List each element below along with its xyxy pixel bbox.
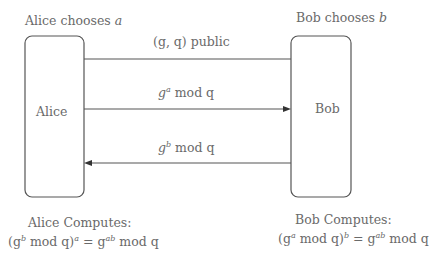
bob-header: Bob chooses b bbox=[296, 11, 387, 25]
bob-header-text: Bob chooses bbox=[296, 10, 379, 25]
bob-computes-label: Bob Computes: bbox=[295, 213, 392, 227]
public-parameters-label: (g, q) public bbox=[153, 35, 230, 49]
alice-header: Alice chooses a bbox=[25, 14, 122, 28]
alice-formula-tail: mod q bbox=[115, 234, 158, 249]
alice-computes-label: Alice Computes: bbox=[28, 216, 131, 230]
message-alice-to-bob-label: ga mod q bbox=[158, 86, 214, 100]
alice-formula-eq: = g bbox=[79, 234, 105, 249]
alice-header-text: Alice chooses bbox=[25, 13, 115, 28]
alice-formula-mid: mod q) bbox=[26, 234, 74, 249]
bob-secret-var: b bbox=[379, 10, 387, 25]
bob-box-label: Bob bbox=[315, 102, 340, 116]
arrowhead-left-icon bbox=[84, 160, 92, 166]
arrowhead-right-icon bbox=[283, 106, 291, 112]
bob-formula-open: (g bbox=[278, 231, 291, 246]
bob-formula-tail: mod q bbox=[385, 231, 428, 246]
msg1-tail: mod q bbox=[171, 85, 214, 100]
msg2-tail: mod q bbox=[171, 140, 214, 155]
alice-formula-result-exp: ab bbox=[105, 234, 115, 243]
bob-box bbox=[291, 36, 351, 197]
bob-formula-mid: mod q) bbox=[296, 231, 344, 246]
alice-box-label: Alice bbox=[36, 105, 67, 119]
msg1-base: g bbox=[158, 85, 166, 100]
msg2-base: g bbox=[158, 140, 166, 155]
alice-secret-var: a bbox=[115, 13, 122, 28]
bob-formula-result-exp: ab bbox=[375, 231, 385, 240]
alice-formula-open: (g bbox=[8, 234, 21, 249]
message-bob-to-alice-label: gb mod q bbox=[158, 141, 214, 155]
bob-formula-eq: = g bbox=[349, 231, 375, 246]
alice-formula: (gb mod q)a = gab mod q bbox=[8, 235, 159, 249]
bob-formula: (ga mod q)b = gab mod q bbox=[278, 232, 429, 246]
